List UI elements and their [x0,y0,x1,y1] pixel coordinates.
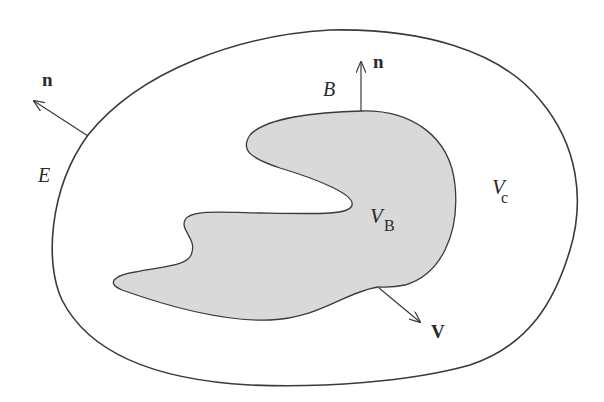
outer-normal-arrow [34,101,88,136]
velocity-arrow [379,288,420,322]
body-b [113,111,455,320]
svg-text:V: V [370,204,385,228]
body-surface-label: B [323,78,335,100]
velocity-label: V [431,321,445,342]
svg-text:B: B [384,217,395,234]
body-normal-label: n [373,51,384,72]
outer-surface-e [52,30,577,386]
outer-normal-label: n [42,69,53,90]
svg-text:c: c [501,189,508,206]
outer-surface-label: E [37,164,50,186]
control-volume-label: V c [492,175,508,206]
control-volume-diagram: n E B n V B V c V [0,0,604,402]
